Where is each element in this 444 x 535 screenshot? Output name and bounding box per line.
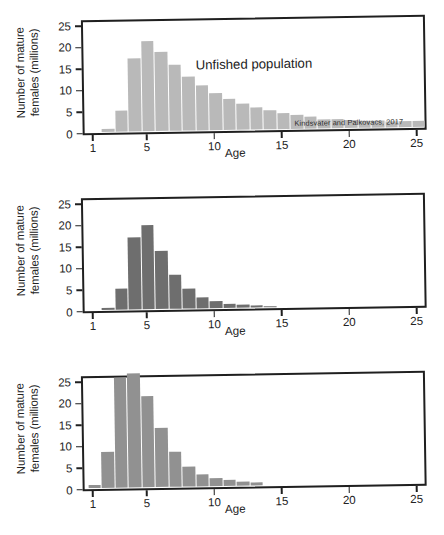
y-axis-tick-label: 10 [46, 262, 72, 275]
fish-population-age-structure-figure: Number of mature females (millions) Age … [0, 0, 444, 535]
y-axis-tick-mark [76, 68, 82, 70]
y-axis-tick-label: 15 [46, 240, 72, 253]
bar [155, 52, 169, 131]
bar [155, 427, 168, 487]
x-axis-tick-label: 15 [275, 494, 288, 507]
y-axis-tick-mark [76, 446, 82, 448]
bar [210, 478, 223, 486]
y-axis-label: Number of mature females (millions) [13, 175, 42, 325]
y-axis-label: Number of mature females (millions) [13, 0, 42, 148]
bar [141, 226, 155, 310]
y-axis-tick-label: 0 [47, 483, 73, 496]
bar [250, 483, 262, 486]
y-axis-tick-label: 15 [46, 62, 72, 75]
bar [102, 129, 114, 132]
chart-panel-size-selected-fish-population: Number of mature females (millions) Age … [0, 178, 444, 356]
bar [169, 275, 182, 309]
x-axis-tick-label: 25 [410, 314, 423, 327]
y-axis-tick-mark [76, 289, 82, 291]
bar [101, 452, 114, 488]
credit-text: Kindsvater and Palkovacs, 2017 [294, 117, 403, 128]
y-axis-tick-label: 25 [45, 375, 71, 388]
x-axis-tick-label: 10 [208, 495, 221, 508]
bar [182, 76, 195, 130]
y-axis-tick-mark [75, 225, 81, 227]
bar [277, 113, 290, 129]
bar [168, 65, 181, 131]
bar [127, 374, 141, 488]
y-axis-tick-label: 20 [45, 397, 71, 410]
y-axis-tick-mark [75, 25, 81, 27]
y-axis-tick-label: 15 [46, 418, 72, 431]
bar [264, 306, 276, 307]
bar [128, 237, 142, 310]
bar-series-panel-3 [85, 375, 423, 488]
x-axis-tick-label: 1 [90, 319, 97, 332]
bar [237, 103, 250, 129]
bar [169, 452, 182, 487]
chart-panel-unfished-population: Number of mature females (millions) Age … [0, 0, 444, 178]
x-axis-label: Age [225, 146, 246, 159]
y-axis-tick-mark [76, 111, 82, 113]
y-axis-tick-label: 5 [46, 105, 72, 118]
y-axis-tick-label: 25 [45, 197, 71, 210]
bar [209, 93, 222, 130]
y-axis-tick-mark [75, 403, 81, 405]
x-axis-tick-label: 25 [410, 136, 423, 149]
bar-series-panel-2 [85, 197, 423, 310]
y-axis-tick-mark [76, 424, 82, 426]
y-axis-tick-mark [76, 90, 82, 92]
x-axis-tick-label: 20 [343, 493, 356, 506]
y-axis-tick-mark [76, 246, 82, 248]
y-axis-tick-label: 5 [46, 461, 72, 474]
bar [237, 482, 249, 486]
y-axis-tick-label: 5 [46, 283, 72, 296]
x-axis-tick-label: 15 [275, 138, 288, 151]
bar [128, 58, 142, 131]
bar [88, 485, 100, 488]
bar [223, 480, 235, 486]
y-axis-tick-mark [77, 311, 83, 313]
axis-group-panel-1 [0, 0, 443, 3]
x-axis-tick-label: 10 [208, 139, 221, 152]
bar [183, 467, 196, 487]
x-axis-label: Age [225, 324, 246, 337]
y-axis-label: Number of mature females (millions) [13, 353, 42, 503]
y-axis-tick-mark [77, 489, 83, 491]
x-axis-tick-label: 25 [410, 492, 423, 505]
plot-area-panel-3 [81, 371, 427, 491]
y-axis-tick-mark [76, 268, 82, 270]
y-axis-tick-label: 20 [45, 41, 71, 54]
bar [155, 251, 168, 309]
y-axis-tick-label: 10 [46, 440, 72, 453]
x-axis-tick-label: 20 [343, 315, 356, 328]
y-axis-tick-label: 25 [45, 19, 71, 32]
x-axis-tick-label: 5 [144, 496, 151, 509]
bar [264, 110, 277, 129]
y-axis-tick-mark [76, 467, 82, 469]
bar [115, 289, 128, 310]
x-axis-tick-label: 1 [90, 141, 97, 154]
x-axis-tick-label: 20 [343, 137, 356, 150]
bar [223, 99, 236, 130]
chart-panel-decreased-maturation-age: Number of mature females (millions) Age … [0, 356, 444, 534]
y-axis-tick-mark [75, 381, 81, 383]
bar [141, 41, 155, 131]
bar [196, 85, 209, 130]
x-axis-tick-label: 10 [208, 317, 221, 330]
bar [237, 305, 249, 308]
x-axis-label: Age [225, 502, 246, 515]
x-axis-tick-label: 5 [144, 140, 151, 153]
y-axis-tick-label: 0 [47, 127, 73, 140]
y-axis-tick-label: 0 [47, 305, 73, 318]
bar [141, 396, 155, 487]
panel-annotation: Unfished population [196, 56, 313, 73]
bar-series-panel-1 [85, 19, 423, 132]
bar [115, 110, 128, 131]
y-axis-tick-label: 10 [46, 84, 72, 97]
bar [210, 301, 223, 308]
y-axis-tick-label: 20 [45, 219, 71, 232]
x-axis-tick-label: 15 [275, 316, 288, 329]
bar [183, 289, 196, 309]
y-axis-tick-mark [75, 47, 81, 49]
